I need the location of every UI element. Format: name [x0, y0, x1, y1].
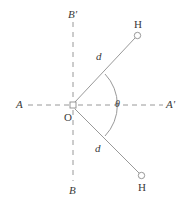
bond-line-lower: [75, 109, 139, 173]
axis-label-b: B: [69, 185, 76, 196]
atom-marker-h-upper: [134, 32, 140, 38]
origin-marker: [70, 102, 76, 108]
angle-label-theta: θ: [115, 99, 120, 109]
diagram-svg: [0, 0, 186, 201]
atom-marker-h-lower: [138, 172, 144, 178]
origin-label: O: [64, 112, 72, 123]
axis-label-a-prime: A': [166, 99, 175, 110]
atom-label-h-lower: H: [138, 182, 146, 193]
axis-label-a: A: [16, 99, 23, 110]
axis-label-b-prime: B': [68, 9, 77, 20]
bond-label-d-lower: d: [95, 143, 101, 154]
atom-label-h-upper: H: [134, 19, 142, 30]
bond-line-upper: [75, 38, 135, 102]
figure-canvas: A A' B' B O H H d d θ: [0, 0, 186, 201]
bond-label-d-upper: d: [96, 51, 102, 62]
